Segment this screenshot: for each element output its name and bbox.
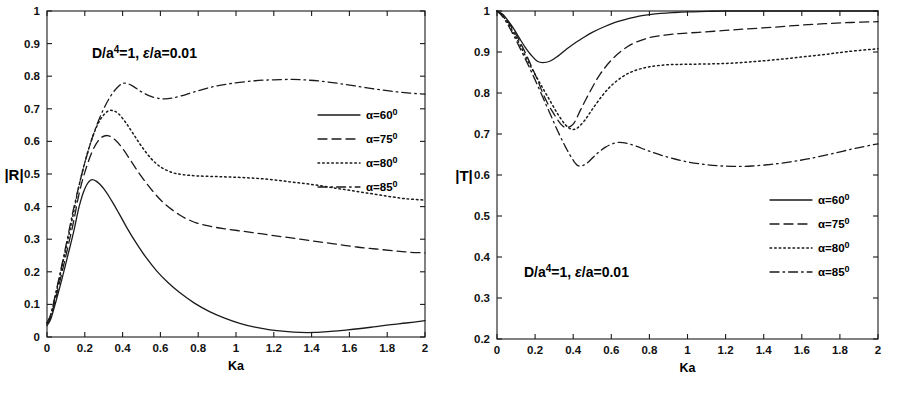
x-tick-label: 0.8 bbox=[190, 342, 207, 354]
x-tick-label: 0 bbox=[44, 342, 50, 354]
x-tick-label: 0.6 bbox=[152, 342, 168, 354]
legend-degree-sign: 0 bbox=[845, 216, 850, 226]
annotation-middle: =1, bbox=[551, 264, 575, 280]
x-tick-label: 2 bbox=[422, 342, 428, 354]
x-tick-label: 0.4 bbox=[565, 344, 582, 356]
legend-label-text: α=85 bbox=[366, 181, 393, 193]
legend-label-a85: α=850 bbox=[818, 264, 850, 278]
legend-label-text: α=60 bbox=[818, 194, 845, 206]
x-tick-label: 0.2 bbox=[77, 342, 93, 354]
x-axis-label: Ka bbox=[680, 361, 697, 375]
curve-a85 bbox=[497, 11, 878, 166]
annotation-suffix: /a=0.01 bbox=[582, 264, 629, 280]
y-tick-label: 0.3 bbox=[24, 233, 40, 245]
legend-label-text: α=85 bbox=[818, 266, 845, 278]
legend-degree-sign: 0 bbox=[393, 179, 398, 189]
transmission-plot: 00.20.40.60.811.21.41.61.820.20.30.40.50… bbox=[450, 0, 900, 395]
y-tick-label: 0.8 bbox=[24, 70, 41, 82]
y-tick-label: 0.9 bbox=[474, 46, 490, 58]
legend-label-a80: α=800 bbox=[818, 240, 850, 254]
x-tick-label: 0.6 bbox=[603, 344, 619, 356]
y-tick-label: 0.3 bbox=[474, 292, 490, 304]
legend-degree-sign: 0 bbox=[393, 155, 398, 165]
legend-label-text: α=60 bbox=[366, 109, 393, 121]
legend-label-a85: α=850 bbox=[366, 179, 398, 193]
annotation-middle: =1, bbox=[119, 45, 143, 61]
x-tick-label: 1.2 bbox=[266, 342, 282, 354]
y-tick-label: 0.5 bbox=[474, 210, 491, 222]
panel-reflection: 00.20.40.60.811.21.41.61.8200.10.20.30.4… bbox=[0, 0, 450, 395]
legend-degree-sign: 0 bbox=[845, 264, 850, 274]
y-tick-label: 0.1 bbox=[24, 298, 41, 310]
legend-label-a80: α=800 bbox=[366, 155, 398, 169]
y-tick-label: 0 bbox=[34, 331, 40, 343]
x-tick-label: 0 bbox=[494, 344, 500, 356]
legend-label-a60: α=600 bbox=[366, 107, 398, 121]
x-axis-label: Ka bbox=[228, 359, 245, 373]
legend-label-a75: α=750 bbox=[818, 216, 850, 230]
x-tick-label: 1.6 bbox=[794, 344, 810, 356]
y-tick-label: 0.4 bbox=[24, 201, 41, 213]
y-tick-label: 0.6 bbox=[24, 135, 40, 147]
annotation-text: D/a4=1, ε/a=0.01 bbox=[524, 263, 629, 280]
y-tick-label: 1 bbox=[484, 5, 491, 17]
x-tick-label: 1.6 bbox=[341, 342, 357, 354]
legend-label-text: α=75 bbox=[366, 133, 393, 145]
x-tick-label: 1.8 bbox=[832, 344, 849, 356]
x-tick-label: 0.4 bbox=[115, 342, 132, 354]
legend-degree-sign: 0 bbox=[393, 107, 398, 117]
y-tick-label: 0.4 bbox=[474, 251, 491, 263]
legend-degree-sign: 0 bbox=[393, 131, 398, 141]
legend-degree-sign: 0 bbox=[845, 240, 850, 250]
x-tick-label: 1.4 bbox=[304, 342, 321, 354]
legend-label-text: α=80 bbox=[818, 242, 845, 254]
y-tick-label: 0.9 bbox=[24, 38, 40, 50]
y-axis-label: |R| bbox=[4, 166, 23, 183]
x-tick-label: 0.8 bbox=[641, 344, 658, 356]
curve-a80 bbox=[497, 11, 878, 129]
reflection-plot: 00.20.40.60.811.21.41.61.8200.10.20.30.4… bbox=[0, 0, 450, 395]
panel-transmission: 00.20.40.60.811.21.41.61.820.20.30.40.50… bbox=[450, 0, 900, 395]
x-tick-label: 1 bbox=[233, 342, 240, 354]
plot-frame bbox=[497, 11, 878, 339]
curve-a60 bbox=[47, 180, 425, 333]
annotation-suffix: /a=0.01 bbox=[150, 45, 197, 61]
y-tick-label: 0.8 bbox=[474, 87, 491, 99]
legend-degree-sign: 0 bbox=[845, 192, 850, 202]
x-tick-label: 0.2 bbox=[527, 344, 543, 356]
y-tick-label: 1 bbox=[34, 5, 41, 17]
x-tick-label: 1.8 bbox=[379, 342, 396, 354]
curve-a60 bbox=[497, 11, 878, 63]
y-tick-label: 0.7 bbox=[474, 128, 490, 140]
y-tick-label: 0.7 bbox=[24, 103, 40, 115]
legend-label-a75: α=750 bbox=[366, 131, 398, 145]
x-tick-label: 2 bbox=[875, 344, 881, 356]
x-tick-label: 1.4 bbox=[756, 344, 773, 356]
annotation-prefix: D/a bbox=[92, 45, 114, 61]
x-tick-label: 1 bbox=[684, 344, 691, 356]
y-tick-label: 0.2 bbox=[474, 333, 490, 345]
figure-container: 00.20.40.60.811.21.41.61.8200.10.20.30.4… bbox=[0, 0, 900, 395]
y-tick-label: 0.5 bbox=[24, 168, 41, 180]
y-axis-label: |T| bbox=[455, 167, 473, 184]
y-tick-label: 0.6 bbox=[474, 169, 490, 181]
curve-a75 bbox=[497, 11, 878, 127]
legend-label-text: α=80 bbox=[366, 157, 393, 169]
annotation-text: D/a4=1, ε/a=0.01 bbox=[92, 44, 197, 61]
legend-label-a60: α=600 bbox=[818, 192, 850, 206]
legend-label-text: α=75 bbox=[818, 218, 845, 230]
annotation-prefix: D/a bbox=[524, 264, 546, 280]
x-tick-label: 1.2 bbox=[718, 344, 734, 356]
y-tick-label: 0.2 bbox=[24, 266, 40, 278]
